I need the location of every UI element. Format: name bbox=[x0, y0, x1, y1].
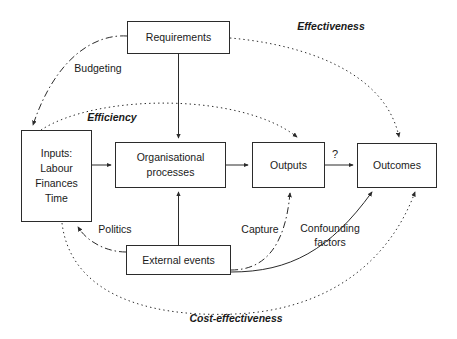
node-outputs[interactable]: Outputs bbox=[252, 142, 325, 188]
node-inputs[interactable]: Inputs: Labour Finances Time bbox=[21, 130, 92, 222]
label-effectiveness: Effectiveness bbox=[288, 20, 374, 33]
label-politics: Politics bbox=[94, 223, 136, 236]
node-inputs-label-3: Time bbox=[45, 191, 68, 206]
diagram-canvas: Requirements Inputs: Labour Finances Tim… bbox=[0, 0, 457, 339]
label-capture: Capture bbox=[238, 223, 282, 236]
node-outcomes-label-0: Outcomes bbox=[373, 158, 421, 173]
node-inputs-label-1: Labour bbox=[40, 161, 73, 176]
node-external-events[interactable]: External events bbox=[126, 245, 231, 275]
connector-cost-effectiveness bbox=[62, 192, 415, 314]
node-organisational-processes-label-1: processes bbox=[147, 165, 195, 180]
label-budgeting: Budgeting bbox=[70, 62, 126, 75]
node-organisational-processes-label-0: Organisational bbox=[137, 150, 205, 165]
node-external-events-label-0: External events bbox=[142, 253, 214, 268]
label-question-mark: ? bbox=[332, 148, 338, 160]
node-requirements[interactable]: Requirements bbox=[127, 21, 230, 54]
label-efficiency: Efficiency bbox=[86, 111, 138, 124]
node-organisational-processes[interactable]: Organisational processes bbox=[115, 142, 226, 188]
node-requirements-label-0: Requirements bbox=[146, 30, 211, 45]
node-outcomes[interactable]: Outcomes bbox=[357, 143, 437, 188]
node-inputs-label-2: Finances bbox=[35, 176, 78, 191]
connector-effectiveness bbox=[230, 38, 399, 137]
node-outputs-label-0: Outputs bbox=[270, 158, 307, 173]
node-inputs-label-0: Inputs: bbox=[41, 146, 73, 161]
label-cost-effectiveness: Cost-effectiveness bbox=[184, 312, 288, 325]
label-confounding-factors: Confounding factors bbox=[296, 221, 364, 249]
